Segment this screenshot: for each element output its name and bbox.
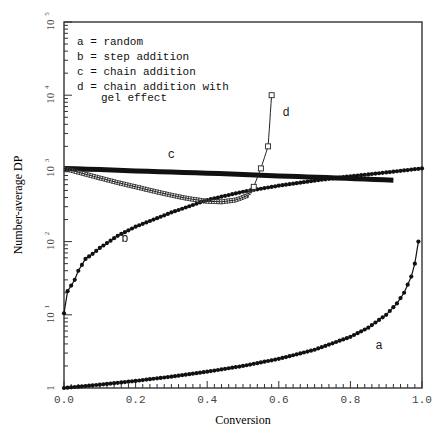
dot-marker (244, 363, 248, 367)
dp-vs-conversion-chart: 0.00.20.40.60.81.01101102103104105 abcd … (0, 0, 444, 440)
dot-marker (184, 205, 188, 209)
dot-marker (94, 249, 98, 253)
dot-marker (87, 254, 91, 258)
curve-label-c: c (168, 148, 175, 162)
dot-marker (87, 384, 91, 388)
y-tick-label-text: 1 (44, 385, 56, 391)
dot-marker (391, 170, 395, 174)
dot-marker (341, 337, 345, 341)
y-axis-label: Number-average DP (11, 155, 25, 254)
dot-marker (406, 168, 410, 172)
dot-marker (313, 348, 317, 352)
series-a: a (62, 240, 421, 391)
dot-marker (302, 180, 306, 184)
dot-marker (73, 385, 77, 389)
dot-marker (130, 226, 134, 230)
dot-marker (363, 173, 367, 177)
dot-marker (194, 371, 198, 375)
dot-marker (137, 223, 141, 227)
dot-marker (76, 269, 80, 273)
dot-marker (65, 289, 69, 293)
dot-marker (216, 195, 220, 199)
dot-marker (91, 252, 95, 256)
x-tick-label: 1.0 (412, 394, 432, 406)
dot-marker (180, 207, 184, 211)
square-marker (251, 184, 256, 189)
dot-marker (377, 171, 381, 175)
dot-marker (355, 331, 359, 335)
x-tick-label: 0.4 (197, 394, 217, 406)
y-tick-label-exponent: 5 (43, 12, 51, 16)
dot-marker (348, 335, 352, 339)
dot-marker (416, 167, 420, 171)
dot-marker (262, 186, 266, 190)
dot-marker (241, 190, 245, 194)
dot-marker (284, 355, 288, 359)
dot-marker (227, 193, 231, 197)
dot-marker (119, 380, 123, 384)
dot-marker (388, 170, 392, 174)
legend-entry-c: c = chain addition (77, 66, 196, 78)
dot-marker (280, 356, 284, 360)
dot-marker (219, 195, 223, 199)
dot-marker (273, 184, 277, 188)
dot-marker (277, 357, 281, 361)
dot-marker (155, 216, 159, 220)
dot-marker (316, 346, 320, 350)
square-marker (269, 93, 274, 98)
series-group: abcd (62, 93, 424, 390)
dot-marker (83, 384, 87, 388)
dot-marker (413, 262, 417, 266)
y-tick-label: 105 (43, 12, 56, 31)
dot-marker (173, 209, 177, 213)
legend-entry-a: a = random (77, 36, 143, 48)
dot-marker (388, 309, 392, 313)
dot-marker (173, 374, 177, 378)
dot-marker (108, 381, 112, 385)
dot-marker (112, 381, 116, 385)
dot-marker (148, 219, 152, 223)
dot-marker (262, 360, 266, 364)
legend-entry-d-cont: gel effect (101, 92, 167, 104)
dot-marker (94, 383, 98, 387)
x-tick-label: 0.2 (126, 394, 146, 406)
y-tick-label: 101 (43, 305, 56, 324)
dot-marker (352, 333, 356, 337)
legend: a = randomb = step additionc = chain add… (77, 36, 229, 104)
dot-marker (166, 212, 170, 216)
dot-marker (234, 365, 238, 369)
dot-marker (101, 382, 105, 386)
dot-marker (126, 380, 130, 384)
dot-marker (144, 378, 148, 382)
dot-marker (270, 185, 274, 189)
curve-label-d: d (282, 106, 289, 120)
dot-marker (105, 382, 109, 386)
dot-marker (116, 234, 120, 238)
dot-marker (169, 210, 173, 214)
dot-marker (334, 340, 338, 344)
dot-marker (420, 166, 424, 170)
dot-marker (259, 360, 263, 364)
y-tick-label-text: 10 (44, 92, 56, 104)
dot-marker (381, 171, 385, 175)
dot-marker (155, 376, 159, 380)
dot-marker (287, 354, 291, 358)
dot-marker (413, 167, 417, 171)
dot-marker (266, 185, 270, 189)
dot-marker (406, 283, 410, 287)
dot-marker (98, 383, 102, 387)
dot-marker (273, 357, 277, 361)
dot-marker (216, 368, 220, 372)
dot-marker (252, 362, 256, 366)
dot-marker (209, 369, 213, 373)
dot-marker (359, 329, 363, 333)
dot-marker (248, 362, 252, 366)
dot-marker (416, 240, 420, 244)
dot-marker (373, 320, 377, 324)
dot-marker (151, 377, 155, 381)
dot-marker (141, 222, 145, 226)
dot-marker (184, 373, 188, 377)
dot-marker (398, 169, 402, 173)
dot-marker (370, 172, 374, 176)
dot-marker (237, 190, 241, 194)
